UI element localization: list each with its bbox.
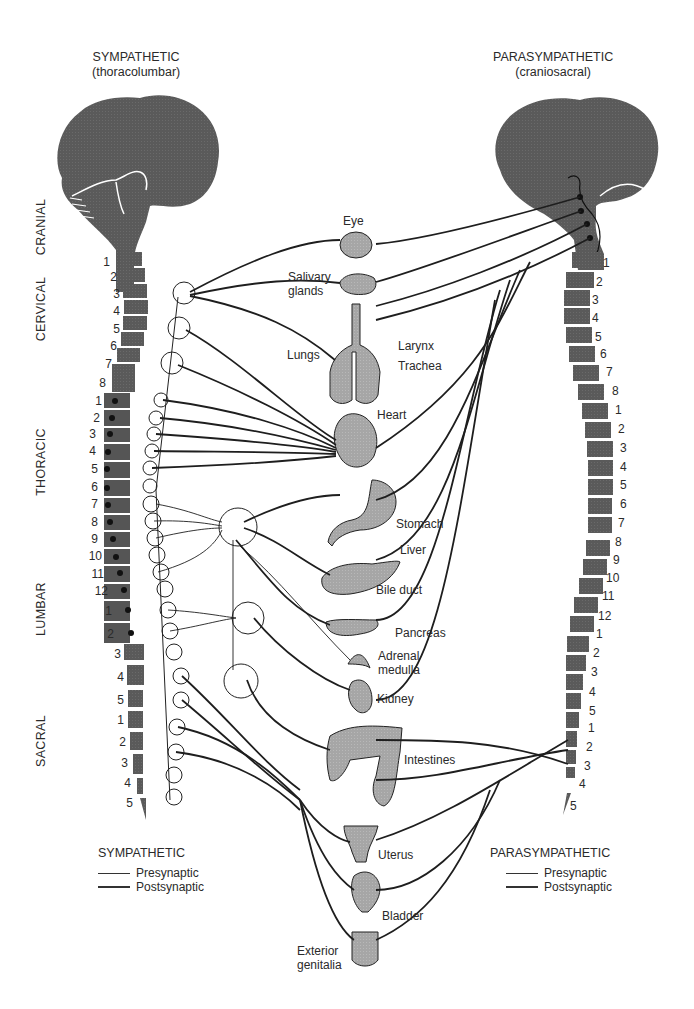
left-cervical-6: 6 [101, 340, 117, 352]
legend-postsynaptic-label: Postsynaptic [136, 880, 204, 894]
left-cervical-1: 1 [94, 256, 110, 268]
parasympathetic-fibers [376, 197, 590, 940]
legend-parasympathetic-title: PARASYMPATHETIC [490, 846, 612, 860]
right-cervical-2: 2 [596, 276, 612, 288]
parasympathetic-subtitle: (craniosacral) [493, 65, 613, 80]
label-genitalia-2: genitalia [297, 959, 342, 972]
left-thoracic-7: 7 [82, 498, 98, 510]
right-lumbar-2: 2 [593, 647, 609, 659]
label-heart: Heart [377, 409, 406, 422]
label-liver: Liver [400, 544, 426, 557]
left-lumbar-4: 4 [108, 671, 124, 683]
left-thoracic-1: 1 [86, 395, 102, 407]
left-thoracic-3: 3 [80, 428, 96, 440]
right-thoracic-10: 10 [606, 572, 622, 584]
left-lumbar-2: 2 [98, 628, 114, 640]
right-thoracic-7: 7 [618, 517, 634, 529]
left-thoracic-6: 6 [82, 481, 98, 493]
label-salivary-2: glands [288, 285, 323, 298]
left-thoracic-5: 5 [82, 463, 98, 475]
label-larynx: Larynx [398, 340, 434, 353]
right-sacral-2: 2 [586, 741, 602, 753]
label-eye: Eye [343, 215, 364, 228]
right-cervical-6: 6 [600, 348, 616, 360]
sympathetic-subtitle: (thoracolumbar) [92, 65, 180, 80]
presynaptic-fibers [154, 504, 350, 670]
left-thoracic-9: 9 [82, 533, 98, 545]
label-kidney: Kidney [377, 693, 414, 706]
right-lumbar-3: 3 [591, 666, 607, 678]
legend-postsynaptic-label: Postsynaptic [544, 880, 612, 894]
label-bladder: Bladder [382, 910, 423, 923]
right-thoracic-8: 8 [615, 536, 631, 548]
left-cervical-7: 7 [96, 358, 112, 370]
parasympathetic-title: PARASYMPATHETIC (craniosacral) [493, 50, 613, 80]
parasympathetic-title-text: PARASYMPATHETIC [493, 50, 613, 65]
right-thoracic-12: 12 [598, 610, 614, 622]
label-lungs: Lungs [287, 349, 320, 362]
right-sacral-1: 1 [588, 722, 604, 734]
label-trachea: Trachea [398, 360, 442, 373]
thin-line-icon [506, 873, 538, 874]
right-thoracic-11: 11 [602, 590, 618, 602]
right-thoracic-1: 1 [615, 404, 631, 416]
right-lumbar-1: 1 [596, 628, 612, 640]
thick-line-icon [98, 886, 130, 889]
right-thoracic-3: 3 [620, 442, 636, 454]
right-lumbar-4: 4 [589, 686, 605, 698]
legend-presynaptic-row: Presynaptic [490, 866, 612, 880]
legend-presynaptic-label: Presynaptic [544, 866, 607, 880]
right-cervical-4: 4 [592, 312, 608, 324]
right-sacral-5: 5 [570, 800, 586, 812]
sympathetic-title: SYMPATHETIC (thoracolumbar) [92, 50, 180, 80]
postsynaptic-fibers [152, 240, 354, 940]
legend-sympathetic: SYMPATHETIC Presynaptic Postsynaptic [98, 846, 204, 894]
legend-presynaptic-label: Presynaptic [136, 866, 199, 880]
left-thoracic-12: 12 [92, 585, 108, 597]
label-salivary-1: Salivary [288, 271, 331, 284]
right-cervical-1: 1 [603, 257, 619, 269]
left-thoracic-2: 2 [84, 412, 100, 424]
legend-sympathetic-title: SYMPATHETIC [98, 846, 204, 860]
label-bile-duct: Bile duct [376, 584, 422, 597]
left-sacral-4: 4 [115, 777, 131, 789]
legend-postsynaptic-row: Postsynaptic [490, 880, 612, 894]
left-sacral-3: 3 [112, 757, 128, 769]
label-uterus: Uterus [378, 849, 413, 862]
left-sacral-5: 5 [117, 797, 133, 809]
right-sacral-3: 3 [584, 760, 600, 772]
left-sacral-2: 2 [110, 736, 126, 748]
legend-parasympathetic: PARASYMPATHETIC Presynaptic Postsynaptic [490, 846, 612, 894]
left-cervical-2: 2 [101, 271, 117, 283]
left-sacral-1: 1 [108, 714, 124, 726]
left-spinal-cord [104, 252, 148, 820]
region-cervical: CERVICAL [34, 259, 48, 359]
label-pancreas: Pancreas [395, 627, 446, 640]
right-cervical-5: 5 [595, 331, 611, 343]
right-lumbar-5: 5 [589, 705, 605, 717]
sympathetic-title-text: SYMPATHETIC [92, 50, 180, 65]
left-lumbar-3: 3 [105, 648, 121, 660]
left-thoracic-11: 11 [88, 568, 104, 580]
right-thoracic-4: 4 [620, 461, 636, 473]
right-cervical-3: 3 [592, 294, 608, 306]
right-thoracic-2: 2 [618, 423, 634, 435]
left-lumbar-5: 5 [108, 694, 124, 706]
thick-line-icon [506, 886, 538, 889]
right-cervical-8: 8 [612, 385, 628, 397]
right-thoracic-5: 5 [620, 479, 636, 491]
sympathetic-chain-ganglia [143, 282, 264, 805]
label-stomach: Stomach [396, 518, 443, 531]
region-lumbar: LUMBAR [34, 559, 48, 659]
right-thoracic-9: 9 [613, 554, 629, 566]
left-lumbar-1: 1 [96, 605, 112, 617]
region-sacral: SACRAL [34, 691, 48, 791]
left-thoracic-4: 4 [80, 445, 96, 457]
label-genitalia-1: Exterior [297, 945, 338, 958]
right-cervical-7: 7 [606, 366, 622, 378]
label-adrenal-2: medulla [378, 664, 420, 677]
left-thoracic-10: 10 [86, 550, 102, 562]
region-thoracic: THORACIC [34, 412, 48, 512]
thin-line-icon [98, 873, 130, 874]
right-thoracic-6: 6 [620, 498, 636, 510]
